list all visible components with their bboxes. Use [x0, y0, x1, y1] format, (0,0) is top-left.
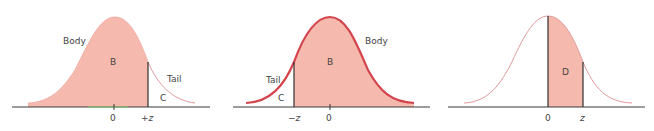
panel-2-region-b-label: B — [327, 57, 333, 67]
panel-3-tick-label-zero: 0 — [545, 113, 551, 123]
panel-2-body-label: Body — [365, 36, 388, 46]
panel-2-tick-label-neg-z: −z — [288, 113, 301, 123]
panel-2-body-tail-left: Body B Tail C −z 0 — [233, 17, 430, 123]
panel-1-tick-label-z: +z — [141, 113, 154, 123]
panel-1-tick-label-zero: 0 — [110, 113, 116, 123]
panel-2-tick-label-zero: 0 — [326, 113, 332, 123]
panel-1-body-label: Body — [63, 36, 86, 46]
panel-3-mean-to-z: D 0 z — [448, 16, 645, 123]
panel-2-shaded-body — [294, 17, 414, 107]
panel-3-region-d-label: D — [562, 67, 569, 77]
panel-2-tail-label: Tail — [265, 75, 281, 85]
panel-3-shaded-region — [548, 16, 583, 107]
normal-distribution-diagrams: Body B Tail C 0 +z Body B Tail C −z 0 — [0, 0, 654, 131]
panel-1-shaded-body — [28, 17, 148, 107]
panel-1-region-b-label: B — [110, 57, 116, 67]
panel-2-region-c-label: C — [278, 93, 284, 103]
panel-1-tail-label: Tail — [166, 74, 182, 84]
panel-1-region-c-label: C — [160, 93, 166, 103]
panel-3-tick-label-z: z — [579, 113, 585, 123]
panel-1-body-tail-right: Body B Tail C 0 +z — [12, 17, 210, 123]
